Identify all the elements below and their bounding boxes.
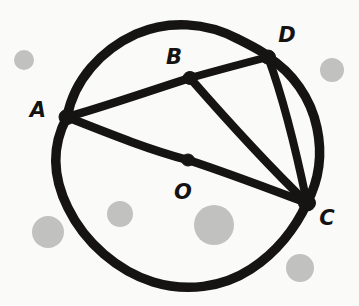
vertex-dot-B — [183, 72, 197, 85]
vertex-dot-O — [182, 154, 195, 166]
point-label-A: A — [30, 100, 46, 121]
vertex-dot-C — [299, 195, 316, 211]
segment-BD — [190, 57, 268, 78]
vertex-dot-A — [59, 110, 75, 125]
point-label-B: B — [166, 47, 182, 68]
geometry-figure: A B D C O — [0, 0, 359, 306]
point-label-O: O — [174, 182, 192, 203]
vertex-dot-D — [261, 50, 276, 64]
segment-AB — [67, 78, 190, 117]
point-label-C: C — [319, 208, 334, 229]
point-label-D: D — [278, 25, 295, 46]
